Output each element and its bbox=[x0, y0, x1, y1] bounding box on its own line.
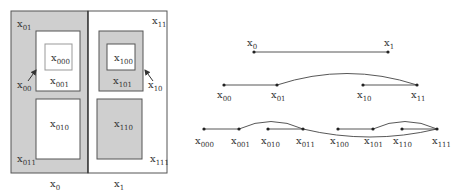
node-label-x110: x110 bbox=[393, 135, 412, 149]
diagram-canvas: x01 x11 x000 x001 x00 x100 x101 x10 x010… bbox=[0, 0, 463, 196]
node-x001 bbox=[237, 127, 240, 130]
region-x000 bbox=[45, 44, 72, 70]
node-label-x010: x010 bbox=[261, 135, 280, 149]
node-label-x1: x1 bbox=[384, 37, 394, 51]
node-x111 bbox=[435, 127, 438, 130]
node-x100 bbox=[336, 127, 339, 130]
node-label-x0: x0 bbox=[247, 37, 257, 51]
label-x1: x1 bbox=[114, 178, 124, 192]
region-partition-figure: x01 x11 x000 x001 x00 x100 x101 x10 x010… bbox=[11, 11, 169, 192]
edge-x101-x111 bbox=[373, 122, 437, 130]
node-x011 bbox=[301, 127, 304, 130]
node-label-x001: x001 bbox=[231, 135, 250, 149]
node-x000 bbox=[202, 127, 205, 130]
node-label-x01: x01 bbox=[271, 89, 286, 103]
node-label-x11: x11 bbox=[411, 89, 426, 103]
node-label-x100: x100 bbox=[330, 135, 349, 149]
node-x101 bbox=[371, 127, 374, 130]
node-label-x111: x111 bbox=[432, 135, 451, 149]
edge-x01-x11 bbox=[277, 74, 417, 86]
node-label-x000: x000 bbox=[195, 135, 214, 149]
edge-x001-x011 bbox=[239, 122, 303, 130]
graph-nodes bbox=[202, 50, 438, 130]
node-label-x10: x10 bbox=[357, 89, 372, 103]
node-x10 bbox=[361, 83, 364, 86]
hierarchy-graph-figure bbox=[204, 52, 437, 137]
node-label-x00: x00 bbox=[217, 89, 232, 103]
node-x01 bbox=[275, 83, 278, 86]
region-x100 bbox=[107, 44, 135, 70]
node-x00 bbox=[222, 83, 225, 86]
node-x010 bbox=[266, 127, 269, 130]
node-x11 bbox=[415, 83, 418, 86]
node-label-x011: x011 bbox=[296, 135, 315, 149]
edge-x011-x111 bbox=[303, 129, 437, 137]
label-x0: x0 bbox=[50, 178, 60, 192]
graph-labels: x0 x1 x00 x01 x10 x11 x000 x001 x010 x01… bbox=[195, 37, 451, 149]
node-x110 bbox=[400, 127, 403, 130]
